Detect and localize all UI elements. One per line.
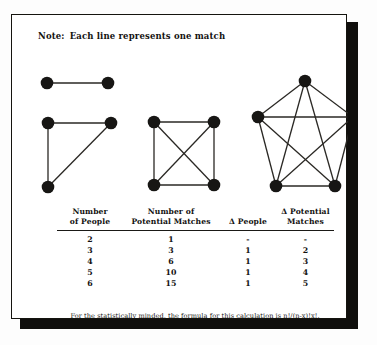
cell-number-of-people: 2 — [57, 230, 123, 245]
header-delta-potential-matches: Δ Potential Matches — [277, 207, 334, 230]
cell-delta-people: 1 — [219, 256, 277, 267]
note-line: Note:Each line represents one match — [38, 31, 225, 41]
cell-number-of-people: 6 — [57, 278, 123, 289]
graph-node — [270, 180, 283, 193]
cell-delta-matches: 5 — [277, 278, 334, 289]
graph-node — [102, 77, 115, 90]
cell-delta-matches: 4 — [277, 267, 334, 278]
table-header-row: Number of People Number of Potential Mat… — [57, 207, 334, 230]
header-number-of-people: Number of People — [57, 207, 123, 230]
cell-number-of-people: 4 — [57, 256, 123, 267]
graph-node — [252, 111, 265, 124]
graph-node — [299, 75, 312, 88]
graph-edge — [48, 123, 111, 187]
table-body: 21--331246135101461515 — [57, 230, 334, 289]
cell-potential-matches: 6 — [123, 256, 219, 267]
four-person-graph — [148, 116, 221, 192]
graph-node — [208, 179, 221, 192]
two-person-graph — [41, 77, 115, 90]
graph-node — [148, 179, 161, 192]
graph-edge — [154, 122, 214, 185]
graph-edge — [154, 122, 214, 185]
cell-delta-people: 1 — [219, 245, 277, 256]
graph-edge — [258, 117, 276, 186]
cell-potential-matches: 3 — [123, 245, 219, 256]
cell-potential-matches: 10 — [123, 267, 219, 278]
header-line-1: Number — [57, 207, 123, 217]
header-line-2: Matches — [277, 217, 334, 227]
scanned-page-figure: Note:Each line represents one match Numb… — [0, 0, 377, 345]
cell-potential-matches: 1 — [123, 230, 219, 245]
header-delta-people: Δ People — [219, 207, 277, 230]
cell-delta-matches: 3 — [277, 256, 334, 267]
page-sheet: Note:Each line represents one match Numb… — [11, 14, 347, 319]
graph-node — [208, 116, 221, 129]
header-line-2: Potential Matches — [123, 217, 219, 227]
table-row: 3312 — [57, 245, 334, 256]
cell-potential-matches: 15 — [123, 278, 219, 289]
table-header: Number of People Number of Potential Mat… — [57, 207, 334, 230]
graph-edge — [305, 81, 348, 117]
cell-delta-matches: 2 — [277, 245, 334, 256]
header-line-2: of People — [57, 217, 123, 227]
graph-node — [148, 116, 161, 129]
graph-edge — [276, 117, 348, 186]
cell-delta-people: - — [219, 230, 277, 245]
header-line-1: Δ Potential — [277, 207, 334, 217]
table-row: 51014 — [57, 267, 334, 278]
cell-delta-people: 1 — [219, 267, 277, 278]
cell-delta-people: 1 — [219, 278, 277, 289]
table-row: 61515 — [57, 278, 334, 289]
three-person-graph — [42, 117, 118, 194]
graph-node — [105, 117, 118, 130]
formula-footnote: For the statistically minded, the formul… — [62, 312, 328, 320]
note-text: Each line represents one match — [70, 31, 226, 41]
graph-edge — [335, 117, 348, 186]
graph-node — [42, 181, 55, 194]
table-row: 4613 — [57, 256, 334, 267]
cell-delta-matches: - — [277, 230, 334, 245]
potential-matches-table: Number of People Number of Potential Mat… — [57, 207, 334, 290]
graph-node — [329, 180, 342, 193]
graph-edge — [258, 81, 305, 117]
graph-node — [42, 117, 55, 130]
graph-node — [41, 77, 54, 90]
note-label: Note: — [38, 31, 65, 41]
graph-edge — [258, 117, 335, 186]
header-line-2: Δ People — [219, 217, 277, 227]
header-number-of-potential-matches: Number of Potential Matches — [123, 207, 219, 230]
graph-edge — [305, 81, 335, 186]
five-person-graph — [252, 75, 348, 193]
table-row: 21-- — [57, 230, 334, 245]
cell-number-of-people: 5 — [57, 267, 123, 278]
header-line-1: Number of — [123, 207, 219, 217]
graph-edge — [276, 81, 305, 186]
cell-number-of-people: 3 — [57, 245, 123, 256]
